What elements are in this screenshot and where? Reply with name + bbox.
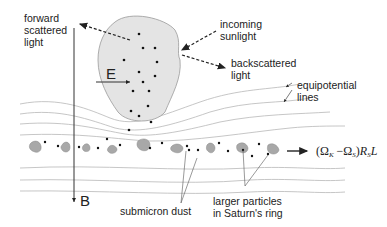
larger-particles-label: larger particles in Saturn's ring <box>213 195 283 219</box>
b-field-label: B <box>80 193 90 209</box>
forward-scattered-label: forward scattered light <box>24 12 67 48</box>
incoming-sunlight-label: incoming sunlight <box>220 18 262 42</box>
incoming-sunlight-arrow <box>182 31 216 50</box>
equipotential-label: equipotential lines <box>297 79 357 103</box>
submicron-dust-label: submicron dust <box>120 205 191 217</box>
e-field-label: E <box>106 66 116 82</box>
backscattered-label: backscattered light <box>231 57 296 81</box>
backscatter-arrow <box>182 55 225 68</box>
corotation-formula: (ΩK −ΩS)RSL <box>316 144 377 159</box>
